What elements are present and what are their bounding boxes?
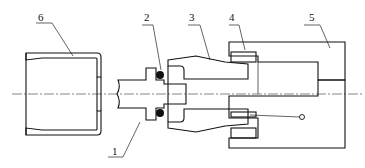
callout-label-5: 5 <box>309 11 315 23</box>
part-5-housing <box>229 42 345 148</box>
callout-label-6: 6 <box>38 11 44 23</box>
callout-label-2: 2 <box>144 11 150 23</box>
callout-label-1: 1 <box>112 145 118 157</box>
callout-label-4: 4 <box>229 11 235 23</box>
callout-label-3: 3 <box>189 11 195 23</box>
assembly-drawing: 6 1 2 3 4 5 <box>0 0 365 168</box>
leader-lines <box>36 23 330 157</box>
